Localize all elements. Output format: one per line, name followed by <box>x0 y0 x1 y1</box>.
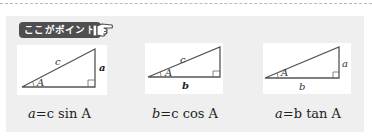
dashed-divider <box>0 3 372 4</box>
angle-arc <box>33 82 35 88</box>
pointing-hand-icon <box>92 20 114 40</box>
formula-rhs: c cos A <box>171 106 218 121</box>
angle-arc <box>160 72 161 77</box>
triangle-diagram-sine: c a A <box>17 45 107 95</box>
angle-label: A <box>164 67 172 78</box>
side-label-adjacent: b <box>299 81 305 92</box>
triangle-diagram-cosine: c A b <box>145 43 223 94</box>
formula-rhs: b tan A <box>294 106 341 121</box>
angle-label: A <box>36 77 44 88</box>
formula-tangent: a=b tan A <box>275 106 341 121</box>
right-triangle <box>22 49 95 87</box>
angle-arc <box>277 73 278 78</box>
formula-sine: a=c sin A <box>28 106 91 121</box>
side-label-hypotenuse: c <box>180 54 186 65</box>
formula-equals: = <box>283 106 294 121</box>
formula-rhs: c sin A <box>47 106 91 121</box>
triangle-diagram-tangent: A a b <box>263 43 351 94</box>
point-badge: ここがポイント <box>19 22 101 38</box>
side-label-adjacent: b <box>182 80 189 91</box>
formula-equals: = <box>36 106 47 121</box>
formula-lhs: a <box>28 106 36 121</box>
right-angle-mark <box>88 80 95 87</box>
right-angle-mark <box>333 72 339 78</box>
formula-equals: = <box>160 106 171 121</box>
right-triangle <box>265 47 339 78</box>
side-label-hypotenuse: c <box>55 56 61 67</box>
side-label-opposite: a <box>99 62 105 73</box>
angle-label: A <box>280 67 288 78</box>
right-angle-mark <box>213 71 220 77</box>
formula-cosine: b=c cos A <box>152 106 218 121</box>
formula-lhs: a <box>275 106 283 121</box>
side-label-opposite: a <box>342 58 348 69</box>
